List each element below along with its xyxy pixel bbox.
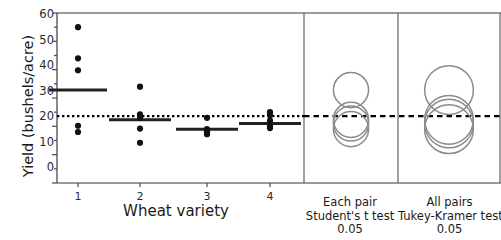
all-pairs-caption: All pairs Tukey-Kramer test 0.05 [398, 196, 501, 237]
all-pairs-test: Tukey-Kramer test [398, 210, 501, 224]
data-point-4-2 [267, 112, 273, 118]
data-point-2-5 [137, 140, 143, 146]
data-point-2-3 [137, 115, 143, 121]
data-point-1-3 [75, 67, 81, 73]
data-point-2-4 [137, 126, 143, 132]
each-pair-caption: Each pair Student's t test 0.05 [300, 196, 400, 237]
comparison-circle-all-pairs-3 [425, 105, 474, 154]
data-point-2-1 [137, 84, 143, 90]
data-point-1-1 [75, 24, 81, 30]
data-point-1-2 [75, 55, 81, 61]
each-pair-test: Student's t test [300, 210, 400, 224]
data-point-3-5 [204, 131, 210, 137]
oneway-analysis-chart: Yield (bushels/acre) 60 50 40 30 20 10 0… [0, 0, 501, 240]
comparison-circle-all-pairs-2 [425, 95, 474, 144]
each-pair-title: Each pair [300, 196, 400, 210]
comparison-circle-all-pairs-4 [425, 99, 474, 148]
each-pair-alpha: 0.05 [300, 223, 400, 237]
all-pairs-alpha: 0.05 [398, 223, 501, 237]
data-point-1-4 [75, 123, 81, 129]
data-point-4-5 [267, 125, 273, 131]
data-point-1-5 [75, 129, 81, 135]
all-pairs-title: All pairs [398, 196, 501, 210]
data-point-3-1 [204, 115, 210, 121]
